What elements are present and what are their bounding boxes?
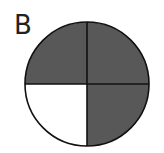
- fraction-circle: [0, 0, 164, 153]
- quadrant-top-left: [25, 22, 87, 84]
- quadrant-top-right: [87, 22, 149, 84]
- quadrant-bottom-right: [87, 84, 149, 146]
- quadrant-bottom-left: [25, 84, 87, 146]
